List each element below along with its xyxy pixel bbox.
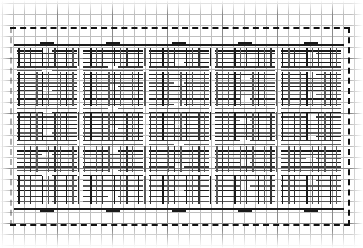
- lattice-bar: [222, 112, 223, 140]
- lattice-bar: [144, 176, 146, 204]
- lattice-bar: [17, 170, 77, 171]
- lattice-bar: [281, 82, 341, 84]
- lattice-bar: [156, 146, 157, 172]
- lattice-bar: [184, 104, 209, 105]
- lattice-bar: [192, 72, 193, 106]
- lattice-bar: [162, 176, 164, 204]
- lattice-bar: [118, 108, 143, 109]
- lattice-bar: [228, 112, 229, 140]
- lattice-bar: [281, 78, 341, 79]
- lattice-bar: [17, 196, 77, 197]
- lattice-bar: [48, 176, 49, 204]
- lattice-bar: [281, 128, 341, 129]
- lattice-bar: [215, 112, 275, 113]
- lattice-bar: [336, 176, 337, 204]
- lattice-bar: [150, 176, 151, 204]
- lattice-bar: [186, 48, 187, 66]
- lattice-bar: [149, 116, 209, 118]
- lattice-bar: [252, 112, 254, 140]
- lattice-bar: [281, 120, 341, 121]
- lattice-bar: [83, 108, 108, 109]
- lattice-bar: [215, 66, 275, 68]
- lattice-bar: [17, 58, 77, 59]
- lattice-bar: [149, 175, 209, 176]
- lattice-bar: [282, 48, 283, 66]
- lattice-bar: [215, 180, 275, 181]
- lattice-pattern-layer: [0, 0, 363, 248]
- lattice-bar: [52, 70, 77, 71]
- lattice-bar: [102, 176, 103, 204]
- lattice-bar: [118, 128, 143, 129]
- lattice-bar: [198, 146, 200, 172]
- lattice-bar: [54, 112, 56, 140]
- lattice-bar: [149, 128, 209, 129]
- lattice-bar: [17, 144, 77, 145]
- lattice-bar: [83, 50, 143, 52]
- lattice-bar: [294, 176, 295, 204]
- lattice-bar: [78, 112, 79, 140]
- lattice-bar: [90, 48, 92, 66]
- lattice-bar: [216, 48, 218, 66]
- lattice-bar: [120, 176, 121, 204]
- lattice-bar: [138, 72, 139, 106]
- lattice-bar: [83, 158, 143, 159]
- lattice-bar: [246, 176, 247, 204]
- lattice-bar: [149, 162, 209, 163]
- lattice-bar: [186, 72, 187, 106]
- lattice-bar: [114, 112, 115, 140]
- lattice-bar: [18, 112, 20, 140]
- lattice-bar: [306, 176, 308, 204]
- lattice-bar: [215, 190, 275, 191]
- lattice-bar: [108, 146, 110, 172]
- lattice-bar: [216, 72, 218, 106]
- lattice-bar: [215, 124, 275, 125]
- lattice-bar: [17, 190, 77, 191]
- lattice-bar: [281, 132, 341, 134]
- lattice-bar: [318, 112, 319, 140]
- lattice-bar: [149, 158, 209, 159]
- lattice-bar: [258, 48, 259, 66]
- lattice-bar: [17, 158, 77, 159]
- lattice-bar: [215, 128, 275, 129]
- lattice-bar: [149, 108, 209, 109]
- lattice-bar: [17, 82, 77, 84]
- lattice-bar: [215, 53, 275, 54]
- lattice-bar: [312, 48, 313, 66]
- lattice-bar: [84, 112, 85, 140]
- lattice-bar: [149, 201, 209, 202]
- lattice-bar: [264, 146, 265, 172]
- lattice-bar: [294, 146, 295, 172]
- pattern-plate: [0, 0, 363, 248]
- lattice-bar: [96, 146, 97, 172]
- lattice-bar: [318, 176, 319, 204]
- lattice-bar: [138, 112, 139, 140]
- lattice-bar: [316, 53, 341, 54]
- lattice-bar: [282, 72, 283, 106]
- lattice-bar: [83, 82, 143, 84]
- lattice-bar: [149, 50, 209, 52]
- lattice-bar: [24, 72, 25, 106]
- lattice-bar: [162, 48, 164, 66]
- lattice-bar: [149, 166, 174, 168]
- lattice-bar: [246, 112, 247, 140]
- lattice-bar: [149, 78, 209, 79]
- lattice-bar: [210, 72, 211, 106]
- lattice-bar: [312, 146, 313, 172]
- lattice-bar: [132, 72, 133, 106]
- lattice-bar: [114, 72, 115, 106]
- lattice-bar: [215, 166, 275, 168]
- lattice-bar: [174, 48, 175, 66]
- lattice-bar: [222, 176, 223, 204]
- lattice-bar: [162, 112, 164, 140]
- lattice-bar: [215, 74, 275, 75]
- lattice-bar: [210, 48, 211, 66]
- lattice-bar: [324, 72, 326, 106]
- lattice-bar: [240, 48, 241, 66]
- lattice-bar: [149, 112, 209, 113]
- lattice-bar: [149, 66, 209, 68]
- lattice-bar: [324, 146, 326, 172]
- lattice-bar: [72, 72, 74, 106]
- lattice-bar: [281, 144, 341, 145]
- lattice-bar: [83, 66, 108, 68]
- lattice-bar: [270, 146, 272, 172]
